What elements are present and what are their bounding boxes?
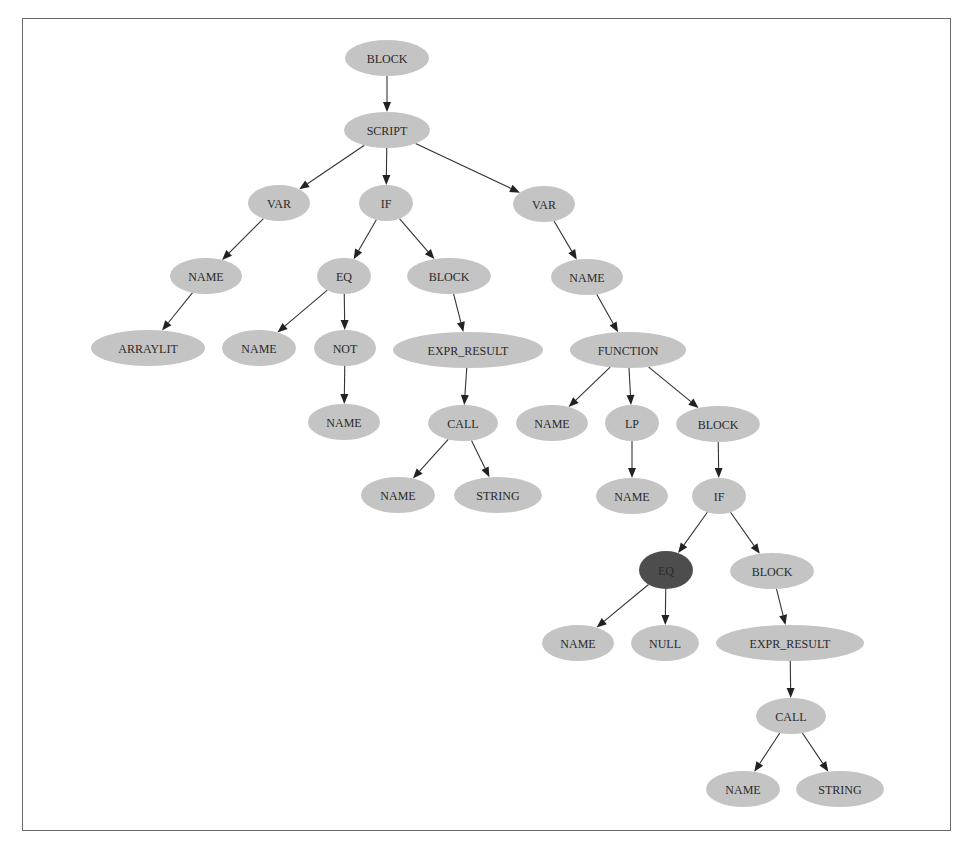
ast-node-string: STRING bbox=[454, 477, 542, 513]
edge-arrow bbox=[277, 290, 327, 332]
node-label: IF bbox=[381, 197, 392, 211]
node-label: NAME bbox=[326, 416, 361, 430]
edge-arrow bbox=[678, 512, 707, 553]
node-label: EXPR_RESULT bbox=[428, 344, 510, 358]
edge-arrow bbox=[597, 584, 649, 627]
node-label: BLOCK bbox=[429, 270, 470, 284]
ast-node-not: NOT bbox=[314, 330, 376, 366]
arrowhead-icon bbox=[597, 618, 607, 627]
edge-arrow bbox=[754, 733, 780, 772]
edge-arrow bbox=[626, 368, 634, 405]
edge-arrow bbox=[802, 733, 828, 772]
arrowhead-icon bbox=[715, 468, 723, 478]
ast-tree-diagram: BLOCKSCRIPTVARIFVARNAMEEQBLOCKNAMEARRAYL… bbox=[0, 0, 974, 844]
edge-arrow bbox=[661, 589, 669, 625]
edge-arrow bbox=[341, 294, 349, 330]
node-label: IF bbox=[714, 490, 725, 504]
edge-arrow bbox=[787, 661, 795, 698]
node-layer: BLOCKSCRIPTVARIFVARNAMEEQBLOCKNAMEARRAYL… bbox=[91, 40, 884, 807]
node-label: CALL bbox=[447, 417, 478, 431]
edge-arrow bbox=[382, 148, 390, 185]
arrowhead-icon bbox=[509, 185, 520, 193]
edge-arrow bbox=[648, 367, 698, 408]
ast-node-block: BLOCK bbox=[345, 40, 429, 76]
ast-node-arraylit: ARRAYLIT bbox=[91, 330, 205, 366]
arrowhead-icon bbox=[568, 249, 577, 260]
arrowhead-icon bbox=[628, 468, 636, 478]
edge-arrow bbox=[416, 143, 520, 192]
node-label: NAME bbox=[534, 417, 569, 431]
ast-node-lp: LP bbox=[605, 405, 659, 441]
edge-arrow bbox=[413, 439, 448, 478]
node-label: EXPR_RESULT bbox=[750, 637, 832, 651]
node-label: ARRAYLIT bbox=[118, 342, 178, 356]
edge-arrow bbox=[597, 294, 618, 332]
edge-arrow bbox=[628, 441, 636, 478]
node-label: NAME bbox=[188, 270, 223, 284]
node-label: NAME bbox=[569, 271, 604, 285]
ast-node-expr-result: EXPR_RESULT bbox=[716, 625, 864, 661]
ast-node-name: NAME bbox=[516, 405, 588, 441]
node-label: NAME bbox=[560, 637, 595, 651]
arrowhead-icon bbox=[457, 321, 465, 332]
arrowhead-icon bbox=[661, 615, 669, 625]
arrowhead-icon bbox=[688, 399, 698, 408]
arrowhead-icon bbox=[481, 467, 489, 478]
node-label: SCRIPT bbox=[367, 124, 408, 138]
arrowhead-icon bbox=[819, 761, 828, 772]
edge-arrow bbox=[354, 220, 377, 259]
arrowhead-icon bbox=[678, 543, 687, 553]
arrowhead-icon bbox=[610, 322, 618, 333]
ast-node-name: NAME bbox=[596, 478, 668, 514]
node-label: NAME bbox=[725, 783, 760, 797]
ast-node-call: CALL bbox=[756, 698, 826, 734]
edge-arrow bbox=[399, 219, 434, 260]
node-label: EQ bbox=[658, 564, 674, 578]
arrowhead-icon bbox=[340, 394, 348, 404]
edge-arrow bbox=[222, 219, 263, 260]
arrowhead-icon bbox=[787, 688, 795, 698]
arrowhead-icon bbox=[751, 543, 760, 553]
ast-node-script: SCRIPT bbox=[344, 112, 430, 148]
node-label: VAR bbox=[267, 197, 291, 211]
node-label: EQ bbox=[336, 270, 352, 284]
arrowhead-icon bbox=[382, 175, 390, 185]
ast-node-var: VAR bbox=[248, 185, 310, 221]
arrowhead-icon bbox=[341, 320, 349, 330]
edge-arrow bbox=[461, 368, 469, 405]
arrowhead-icon bbox=[779, 614, 787, 625]
ast-node-eq-highlighted: EQ bbox=[639, 551, 693, 589]
node-label: BLOCK bbox=[367, 52, 408, 66]
ast-node-if: IF bbox=[692, 478, 746, 514]
ast-node-block: BLOCK bbox=[730, 553, 814, 589]
arrowhead-icon bbox=[383, 102, 391, 112]
node-label: NOT bbox=[333, 342, 358, 356]
edge-arrow bbox=[454, 294, 465, 332]
edge-arrow bbox=[383, 76, 391, 112]
ast-node-name: NAME bbox=[551, 259, 623, 295]
edge-arrow bbox=[731, 512, 760, 553]
arrowhead-icon bbox=[277, 323, 287, 333]
node-label: BLOCK bbox=[698, 418, 739, 432]
node-label: STRING bbox=[818, 783, 862, 797]
ast-node-name: NAME bbox=[706, 771, 780, 807]
node-label: NAME bbox=[241, 342, 276, 356]
arrowhead-icon bbox=[162, 320, 171, 330]
ast-node-name: NAME bbox=[222, 330, 296, 366]
edge-arrow bbox=[471, 440, 489, 477]
edge-arrow bbox=[569, 367, 611, 407]
node-label: NAME bbox=[380, 489, 415, 503]
arrowhead-icon bbox=[626, 395, 634, 405]
arrowhead-icon bbox=[299, 180, 310, 189]
ast-node-name: NAME bbox=[542, 625, 614, 661]
ast-node-name: NAME bbox=[308, 404, 380, 440]
edge-arrow bbox=[162, 293, 192, 331]
arrowhead-icon bbox=[754, 761, 763, 772]
node-label: NULL bbox=[649, 637, 681, 651]
node-label: NAME bbox=[614, 490, 649, 504]
edge-arrow bbox=[554, 221, 577, 260]
node-label: BLOCK bbox=[752, 565, 793, 579]
ast-node-string: STRING bbox=[796, 771, 884, 807]
ast-node-null: NULL bbox=[631, 625, 699, 661]
node-label: LP bbox=[625, 417, 639, 431]
